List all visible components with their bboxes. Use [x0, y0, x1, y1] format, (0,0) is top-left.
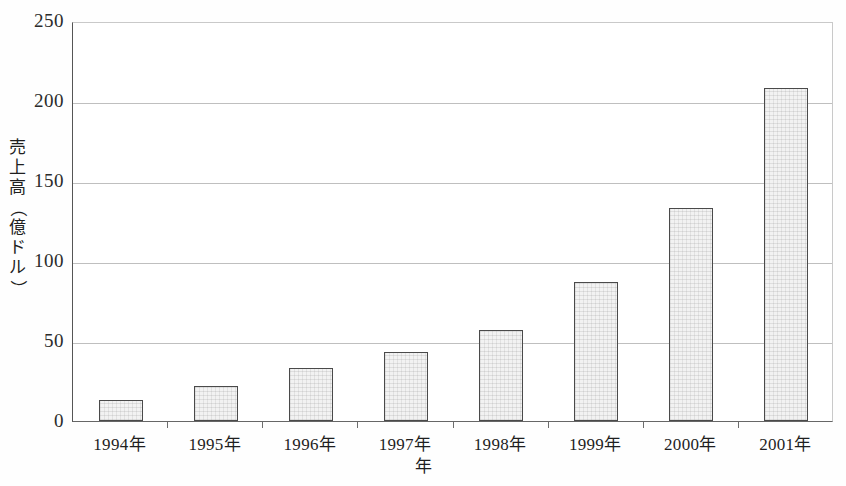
x-tick-mark: [643, 422, 644, 428]
gridline: [73, 103, 832, 104]
y-tick-label: 50: [0, 330, 64, 352]
y-tick-label: 250: [0, 10, 64, 32]
gridline: [73, 263, 832, 264]
bar: [384, 352, 428, 421]
gridline: [73, 183, 832, 184]
x-tick-mark: [357, 422, 358, 428]
y-tick-label: 100: [0, 250, 64, 272]
x-tick-mark: [548, 422, 549, 428]
chart-page: 売上高（億ドル） 050100150200250 1994年1995年1996年…: [0, 0, 846, 486]
x-tick-mark: [262, 422, 263, 428]
bar: [194, 386, 238, 421]
bar: [764, 88, 808, 421]
y-tick-label: 200: [0, 90, 64, 112]
gridline: [73, 343, 832, 344]
bar: [479, 330, 523, 421]
x-axis-title: 年: [0, 452, 846, 477]
y-tick-label: 150: [0, 170, 64, 192]
plot-area: [72, 22, 833, 422]
y-tick-label: 0: [0, 410, 64, 432]
bar: [99, 400, 143, 421]
bar: [669, 208, 713, 421]
x-tick-mark: [167, 422, 168, 428]
x-tick-mark: [453, 422, 454, 428]
y-axis-tick-labels: 050100150200250: [0, 0, 66, 486]
x-tick-mark: [738, 422, 739, 428]
bar: [289, 368, 333, 421]
bar: [574, 282, 618, 421]
